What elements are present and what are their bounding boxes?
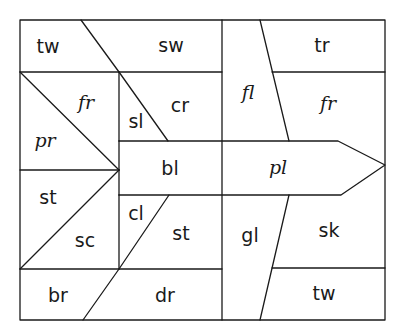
cell-label-tw-bottom: tw (313, 282, 336, 304)
cell-label-st-left: st (39, 186, 56, 208)
cell-label-gl: gl (241, 224, 258, 246)
cell-label-dr: dr (155, 284, 175, 306)
cell-label-pr: pr (34, 129, 57, 151)
cell-label-fr-left: fr (76, 91, 96, 113)
cell-label-sw: sw (158, 34, 183, 56)
cell-label-sk: sk (319, 219, 340, 241)
cell-label-st-center: st (172, 222, 189, 244)
cell-label-tw-top: tw (37, 35, 60, 57)
divider-tw-sw (81, 20, 119, 72)
divider-fl-tr (260, 20, 289, 141)
cell-label-sl: sl (128, 110, 143, 132)
cell-label-fl: fl (240, 81, 255, 103)
cell-label-cl: cl (128, 202, 144, 224)
cell-label-fr-right: fr (318, 92, 338, 114)
divider-cl-st (119, 195, 169, 269)
cell-label-tr: tr (314, 34, 329, 56)
divider-br-dr (83, 269, 119, 320)
cell-label-bl: bl (161, 157, 178, 179)
cell-label-sc: sc (75, 229, 95, 251)
word-grid-diagram: tw sw fr pr sl cr bl st sc cl st br dr f… (0, 0, 401, 333)
divider-gl-sk (260, 195, 289, 320)
divider-st-sc (20, 170, 119, 269)
arrow-outline (119, 141, 385, 195)
cell-label-br: br (48, 284, 68, 306)
cell-label-cr: cr (171, 94, 189, 116)
cell-label-pl: pl (269, 156, 287, 178)
divider-fr-pr (20, 72, 119, 170)
